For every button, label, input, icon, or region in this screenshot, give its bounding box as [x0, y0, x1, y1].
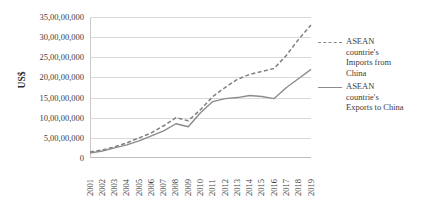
- x-axis-tick-label: 2005: [134, 160, 145, 196]
- legend-marker-solid: [318, 83, 342, 93]
- y-axis-tick-label: 10,00,00,000: [39, 114, 84, 123]
- x-axis-tick-labels: 2001200220032004200520062007200820092010…: [90, 160, 311, 199]
- x-axis-tick-label: 2017: [281, 160, 292, 196]
- x-axis-tick-label: 2009: [183, 160, 194, 196]
- x-axis-tick-label: 2006: [146, 160, 157, 196]
- y-axis-tick-label: 25,00,00,000: [39, 53, 84, 62]
- x-axis-tick-label: 2001: [85, 160, 96, 196]
- x-axis-tick-label: 2004: [121, 160, 132, 196]
- y-axis-tick-label: 30,00,00,000: [39, 33, 84, 42]
- y-axis-tick-label: 20,00,00,000: [39, 73, 84, 82]
- x-axis-tick-label: 2003: [109, 160, 120, 196]
- x-axis-tick-label: 2016: [269, 160, 280, 196]
- y-axis-tick-label: 35,00,00,000: [39, 13, 84, 22]
- line-chart: US$ 05,00,00,00010,00,00,00015,00,00,000…: [0, 0, 434, 199]
- y-axis-tick-label: 5,00,00,000: [44, 134, 84, 143]
- y-axis-tick-labels: 05,00,00,00010,00,00,00015,00,00,00020,0…: [18, 0, 86, 199]
- x-axis-tick-label: 2012: [220, 160, 231, 196]
- legend-marker-dashed: [318, 38, 342, 48]
- legend-entry[interactable]: ASEAN countrie's Exports to China: [318, 81, 432, 113]
- series-lines: [90, 17, 311, 158]
- legend-label: ASEAN countrie's Imports from China: [346, 36, 406, 78]
- legend: ASEAN countrie's Imports from ChinaASEAN…: [318, 36, 432, 116]
- y-axis-tick-label: 15,00,00,000: [39, 94, 84, 103]
- x-axis-tick-label: 2014: [244, 160, 255, 196]
- legend-line: [318, 42, 342, 43]
- series-line-imports: [90, 25, 311, 152]
- x-axis-tick-label: 2002: [97, 160, 108, 196]
- x-axis-tick-label: 2011: [207, 160, 218, 196]
- x-axis-tick-label: 2010: [195, 160, 206, 196]
- legend-entry[interactable]: ASEAN countrie's Imports from China: [318, 36, 432, 78]
- y-axis-tick-label: 0: [80, 154, 84, 163]
- series-line-exports: [90, 69, 311, 153]
- legend-line: [318, 87, 342, 88]
- x-axis-tick-label: 2019: [306, 160, 317, 196]
- x-axis-tick-label: 2008: [170, 160, 181, 196]
- plot-area: [90, 17, 311, 158]
- x-axis-tick-label: 2018: [293, 160, 304, 196]
- legend-label: ASEAN countrie's Exports to China: [346, 81, 406, 113]
- x-axis-tick-label: 2007: [158, 160, 169, 196]
- x-axis-tick-label: 2015: [256, 160, 267, 196]
- x-axis-tick-label: 2013: [232, 160, 243, 196]
